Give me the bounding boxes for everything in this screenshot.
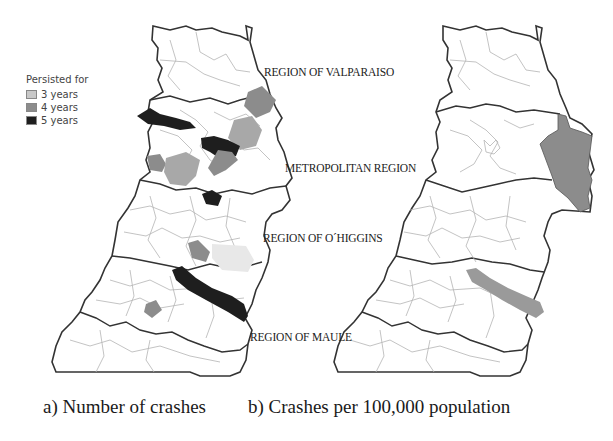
legend-item-3-years: 3 years bbox=[26, 88, 89, 101]
caption-panel-a: a) Number of crashes bbox=[43, 396, 206, 418]
legend-item-5-years: 5 years bbox=[26, 114, 89, 127]
map-b bbox=[334, 26, 594, 376]
figure: Persisted for 3 years 4 years 5 years RE… bbox=[0, 0, 613, 441]
legend-swatch-4-years bbox=[26, 103, 37, 112]
legend-swatch-3-years bbox=[26, 90, 37, 99]
caption-panel-b: b) Crashes per 100,000 population bbox=[248, 396, 510, 418]
map-b-outline bbox=[334, 26, 594, 376]
legend-label: 4 years bbox=[41, 102, 78, 113]
legend-swatch-5-years bbox=[26, 116, 37, 125]
region-label-maule: REGION OF MAULE bbox=[250, 331, 352, 343]
region-label-ohiggins: REGION OF O´HIGGINS bbox=[263, 232, 383, 244]
legend-item-4-years: 4 years bbox=[26, 101, 89, 114]
region-label-valparaiso: REGION OF VALPARAISO bbox=[264, 66, 394, 78]
region-label-metropolitan: METROPOLITAN REGION bbox=[285, 162, 416, 174]
legend-title: Persisted for bbox=[26, 74, 89, 85]
legend-label: 5 years bbox=[41, 115, 78, 126]
legend: Persisted for 3 years 4 years 5 years bbox=[26, 74, 89, 127]
legend-label: 3 years bbox=[41, 89, 78, 100]
